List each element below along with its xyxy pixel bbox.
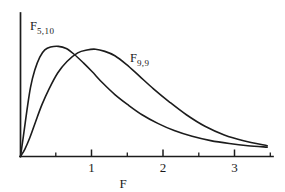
x-tick-label-2: 2 [160, 160, 167, 175]
x-axis-title: F [119, 176, 126, 191]
series-label-f-9-9-base: F [130, 51, 137, 65]
series-label-f-5-10-sub: 5,10 [37, 26, 54, 36]
f-distribution-chart: 1 2 3 F F5,10 F9,9 [0, 0, 285, 192]
series-label-f-9-9-sub: 9,9 [137, 58, 149, 68]
series-label-f-9-9: F9,9 [130, 52, 149, 68]
series-label-f-5-10: F5,10 [30, 20, 54, 36]
x-tick-label-1: 1 [88, 160, 95, 175]
series-label-f-5-10-base: F [30, 19, 37, 33]
x-tick-label-3: 3 [231, 160, 238, 175]
